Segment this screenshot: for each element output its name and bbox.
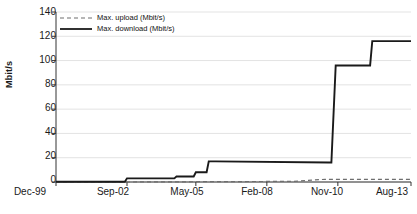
series-line-download: [56, 41, 411, 182]
x-axis-tick-label: Aug-13: [376, 186, 408, 197]
legend-item-upload: Max. upload (Mbit/s): [60, 13, 175, 22]
x-axis-tick-label: Feb-08: [241, 186, 273, 197]
x-axis-tick-label: Nov-10: [311, 186, 343, 197]
x-axis-tick-labels: Dec-99 Sep-02 May-05 Feb-08 Nov-10 Aug-1…: [0, 186, 417, 202]
legend-label-upload: Max. upload (Mbit/s): [97, 13, 165, 22]
x-axis-tick-label: May-05: [170, 186, 203, 197]
x-axis-tick-label: Sep-02: [97, 186, 129, 197]
legend: Max. upload (Mbit/s) Max. download (Mbit…: [60, 13, 175, 35]
legend-label-download: Max. download (Mbit/s): [97, 24, 175, 33]
line-chart: Mbit/s 140 120 100 80 60 40 20 0 Max. up…: [0, 0, 417, 214]
legend-item-download: Max. download (Mbit/s): [60, 24, 175, 33]
x-axis-tick-label: Dec-99: [14, 186, 46, 197]
